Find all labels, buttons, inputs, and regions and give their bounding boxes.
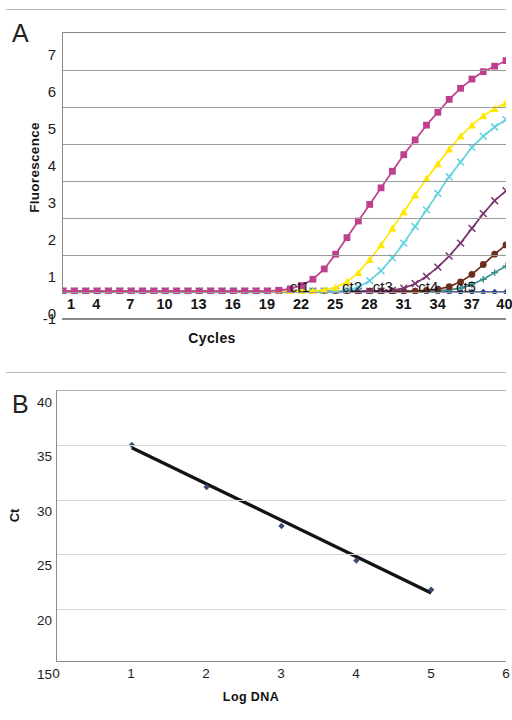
panel-a-x-tick: 40 [496,296,512,312]
panel-b-y-tick: 20 [22,612,52,627]
panel-a-x-tick: 22 [293,296,309,312]
panel-a-ct-annotation: ct1 [290,278,310,295]
panel-b-gridline [57,445,506,446]
panel-b-y-tick: 15 [22,667,52,682]
panel-a-y-tick: 7 [34,46,56,63]
panel-a-gridline [63,292,506,293]
panel-a-y-tick: 1 [34,268,56,285]
panel-a-x-tick: 13 [191,296,207,312]
panel-a-plot-area [62,32,506,294]
panel-b-x-tick: 3 [277,666,285,681]
panel-b-y-axis-title: Ct [7,486,22,546]
panel-a-gridline [63,107,506,108]
panel-b-x-tick: 1 [127,666,135,681]
panel-a-ct-annotation: ct2 [342,278,362,295]
panel-a-x-tick: 31 [395,296,411,312]
panel-a-x-tick: 28 [361,296,377,312]
panel-b-standard-curve-chart: Ct 403530252015 0123456 Log DNA [0,378,506,720]
panel-a-x-tick: 1 [67,296,75,312]
panel-b-points-and-fit [57,391,506,661]
panel-a-x-tick: 10 [156,296,172,312]
panel-a-ct-annotation: ct4 [418,278,438,295]
panel-a-x-tick: 25 [327,296,343,312]
panel-b-y-tick: 30 [22,503,52,518]
panel-a-gridline [63,218,506,219]
panel-b-plot-area [56,390,506,662]
panel-a-y-tick: 3 [34,194,56,211]
panel-a-x-tick: 19 [259,296,275,312]
panel-a-x-tick: 4 [92,296,100,312]
panel-a-y-tick: 2 [34,231,56,248]
panel-a-gridline [63,144,506,145]
panel-a-y-tick: 6 [34,83,56,100]
panel-b-gridline [57,609,506,610]
panel-a-y-tick-minus-one: -1 [30,310,56,327]
panel-a-y-tick: 4 [34,157,56,174]
panel-b-y-tick: 25 [22,558,52,573]
panel-b-x-tick: 2 [202,666,210,681]
panel-a-x-tick: 7 [126,296,134,312]
panel-a-gridline [63,181,506,182]
panel-a-ct-annotation: ct5 [456,278,476,295]
panel-b-x-tick-labels: 0123456 [56,666,506,686]
scan-separator-middle [6,372,506,373]
panel-a-x-tick: 34 [430,296,446,312]
panel-a-x-tick: 37 [464,296,480,312]
panel-a-gridline [63,255,506,256]
panel-a-x-tick: 16 [225,296,241,312]
panel-a-x-axis-line [62,318,506,320]
panel-b-gridline [57,554,506,555]
panel-b-x-tick: 0 [52,666,60,681]
panel-b-x-tick: 5 [427,666,435,681]
panel-a-ct-annotation: ct3 [373,278,393,295]
panel-a-qpcr-amplification-chart: Fluorescence 76543210 -1 147101316192225… [0,10,506,360]
panel-b-y-tick: 35 [22,449,52,464]
panel-a-x-axis-title: Cycles [62,330,362,346]
panel-b-y-tick: 40 [22,395,52,410]
panel-b-y-tick-labels: 403530252015 [22,390,52,662]
panel-a-y-tick: 5 [34,120,56,137]
panel-b-x-axis-title: Log DNA [56,690,446,704]
panel-b-gridline [57,500,506,501]
panel-b-x-tick: 4 [352,666,360,681]
panel-b-x-tick: 6 [502,666,510,681]
panel-a-x-tick-labels: 1471013161922252831343740 [62,296,506,316]
panel-a-y-tick-labels: 76543210 [30,32,56,323]
panel-a-gridline [63,70,506,71]
